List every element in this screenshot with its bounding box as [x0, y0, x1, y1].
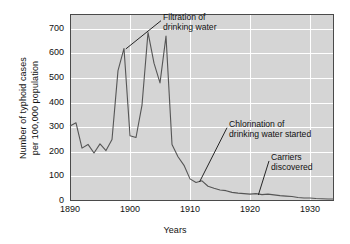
annotation-chlorination-line-2: drinking water started: [229, 129, 311, 140]
annotation-chlorination: Chlorination ofdrinking water started: [229, 119, 311, 140]
plot-background: [70, 14, 334, 201]
annotation-filtration-line-1: Filtration of: [163, 12, 217, 23]
annotation-filtration: Filtration ofdrinking water: [163, 12, 217, 33]
typhoid-cases-line-chart: Number of typhoid cases per 100,000 popu…: [0, 0, 350, 244]
annotation-filtration-line-2: drinking water: [163, 22, 217, 33]
annotation-carriers-line-2: discovered: [271, 162, 313, 173]
annotation-carriers-line-1: Carriers: [271, 152, 313, 163]
annotation-chlorination-line-1: Chlorination of: [229, 119, 311, 130]
annotation-carriers: Carriersdiscovered: [271, 152, 313, 173]
